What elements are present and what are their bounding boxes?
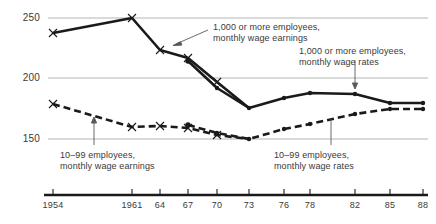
annotation-large-earnings-line2: monthly wage earnings (213, 33, 320, 44)
series-small-rates (185, 107, 425, 141)
x-tick-label-73: 73 (235, 200, 263, 210)
x-tick-label-82: 82 (341, 200, 369, 210)
x-tick-label-64: 64 (146, 200, 174, 210)
annotation-small-rates-line2: monthly wage rates (274, 161, 354, 172)
annotation-small-earnings-line1: 10–99 employees, (60, 150, 155, 161)
pointer-small-earnings-arrow (91, 117, 96, 145)
y-tick-label-200: 200 (8, 72, 40, 83)
x-tick-label-88: 88 (409, 200, 436, 210)
x-tick-label-78: 78 (296, 200, 324, 210)
annotation-large-earnings-line1: 1,000 or more employees, (213, 22, 320, 33)
x-tick-label-76: 76 (270, 200, 298, 210)
x-tick-label-1954: 1954 (33, 200, 73, 210)
annotation-small-earnings: 10–99 employees, monthly wage earnings (60, 150, 155, 172)
y-tick-label-150: 150 (8, 133, 40, 144)
x-tick-label-67: 67 (174, 200, 202, 210)
x-tick-label-70: 70 (203, 200, 231, 210)
annotation-large-rates-line1: 1,000 or more employees, (299, 46, 406, 57)
annotation-small-rates: 10–99 employees, monthly wage rates (274, 150, 354, 172)
annotation-small-rates-line1: 10–99 employees, (274, 150, 354, 161)
pointer-large-earnings-arrow (173, 30, 208, 46)
y-tick-label-250: 250 (8, 12, 40, 23)
wage-index-line-chart: 250 200 150 1954 1961 64 67 70 73 76 78 … (0, 0, 436, 224)
x-axis-line (44, 189, 428, 195)
annotation-small-earnings-line2: monthly wage earnings (60, 161, 155, 172)
annotation-large-earnings: 1,000 or more employees, monthly wage ea… (213, 22, 320, 44)
x-tick-label-85: 85 (376, 200, 404, 210)
annotation-large-rates: 1,000 or more employees, monthly wage ra… (299, 46, 406, 68)
annotation-large-rates-line2: monthly wage rates (299, 57, 406, 68)
